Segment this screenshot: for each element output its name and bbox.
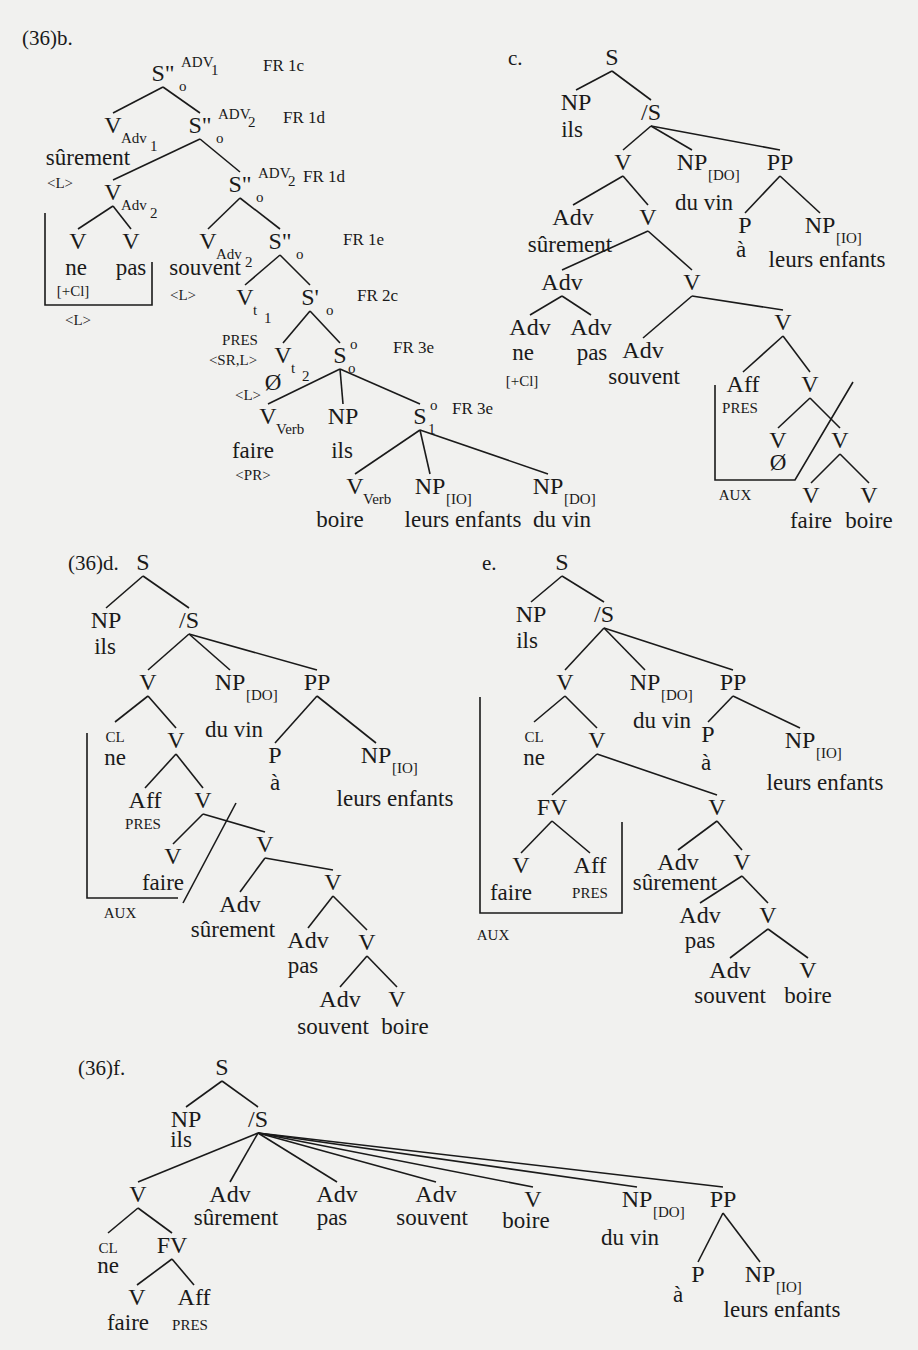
tree-branch bbox=[565, 628, 604, 670]
lexical-item: leurs enfants bbox=[769, 247, 886, 272]
feature-annotation: <SR,L> bbox=[209, 352, 257, 368]
syntax-trees-figure: S"oADV1FR 1cVAdv1sûrement<L>S"oADV2FR 1d… bbox=[0, 0, 918, 1350]
tree-node: Advsouvent bbox=[297, 986, 369, 1039]
tree-branch bbox=[137, 1259, 172, 1285]
lexical-item: ne bbox=[97, 1253, 119, 1278]
tree-branch bbox=[340, 956, 367, 987]
node-subscript-index: 1 bbox=[264, 310, 272, 326]
tree-branch bbox=[176, 754, 203, 788]
aux-label: AUX bbox=[719, 487, 752, 503]
tree-node: Pà bbox=[736, 212, 752, 262]
node-category: Adv bbox=[415, 1181, 456, 1207]
tree-branch bbox=[208, 198, 240, 229]
node-category: PP bbox=[720, 669, 747, 695]
tree-node: S"oADV2FR 1d bbox=[188, 106, 325, 146]
node-subscript: [DO] bbox=[661, 687, 693, 703]
tree-node: V bbox=[683, 269, 701, 295]
tree-branch bbox=[534, 696, 565, 722]
tree-node: Vfaire bbox=[490, 852, 532, 905]
lexical-item: boire bbox=[502, 1208, 549, 1233]
tree-branch bbox=[189, 634, 317, 670]
tree-branch bbox=[173, 814, 203, 844]
tree-branch bbox=[283, 311, 310, 343]
tree-node: NP[DO]du vin bbox=[601, 1186, 685, 1250]
tree-node: NPils bbox=[328, 403, 359, 463]
tree-node: Advpas bbox=[316, 1181, 357, 1230]
lexical-item: PRES bbox=[572, 885, 608, 901]
node-subscript: [IO] bbox=[816, 745, 842, 761]
lexical-item: pas bbox=[317, 1205, 348, 1230]
node-category: /S bbox=[179, 607, 199, 633]
tree-branch bbox=[145, 754, 176, 788]
aux-label: AUX bbox=[104, 905, 137, 921]
lexical-item: souvent bbox=[694, 983, 766, 1008]
lexical-item: PRES bbox=[222, 332, 258, 348]
tree-branch bbox=[240, 858, 265, 892]
tree-node: NP[IO]leurs enfants bbox=[337, 742, 454, 811]
lexical-item: boire bbox=[784, 983, 831, 1008]
tree-branch bbox=[698, 1213, 723, 1262]
tree-node: V bbox=[708, 794, 726, 820]
tree-node: PP bbox=[304, 669, 331, 695]
tree-node: /S bbox=[641, 99, 661, 125]
tree-branch bbox=[717, 821, 742, 850]
node-category: Adv bbox=[219, 891, 260, 917]
tree-branch bbox=[106, 576, 143, 608]
node-subscript: o bbox=[216, 130, 224, 146]
tree-branch bbox=[265, 858, 333, 870]
tree-node: Vne[+Cl] bbox=[57, 228, 90, 299]
tree-node: Advsouvent bbox=[694, 957, 766, 1008]
tree-node: Pà bbox=[673, 1261, 705, 1307]
node-category: S' bbox=[301, 284, 319, 310]
node-category: Adv bbox=[570, 314, 611, 340]
node-subscript: Adv bbox=[121, 197, 147, 213]
node-category: V bbox=[388, 986, 406, 1012]
node-category: V bbox=[799, 957, 817, 983]
tree-branch bbox=[186, 1081, 222, 1107]
lexical-item: boire bbox=[845, 508, 892, 533]
lexical-item: ne bbox=[512, 340, 534, 365]
lexical-item: sûrement bbox=[633, 870, 718, 895]
node-category: NP bbox=[91, 607, 122, 633]
node-category: S bbox=[215, 1054, 228, 1080]
tree-node: V bbox=[733, 849, 751, 875]
tree-node: V bbox=[759, 902, 777, 928]
tree-branch bbox=[203, 814, 265, 832]
tree-branch bbox=[573, 176, 623, 205]
node-superscript: o bbox=[430, 397, 438, 413]
node-category: V bbox=[199, 228, 217, 254]
lexical-item: faire bbox=[232, 438, 274, 463]
node-category: V bbox=[324, 869, 342, 895]
node-category: PP bbox=[304, 669, 331, 695]
tree-node: AffPRES bbox=[172, 1284, 210, 1333]
tree-branch bbox=[780, 176, 820, 213]
node-category: Adv bbox=[319, 986, 360, 1012]
tree-node: FV bbox=[537, 794, 568, 820]
tree-branch bbox=[138, 1133, 258, 1182]
tree-branch bbox=[230, 1133, 258, 1182]
node-category: V bbox=[774, 309, 792, 335]
tree-branch bbox=[778, 398, 810, 428]
lexical-item: à bbox=[270, 770, 280, 795]
tree-node: NP[IO]leurs enfants bbox=[769, 212, 886, 272]
node-superscript-index: 2 bbox=[248, 114, 256, 130]
tree-node: V bbox=[801, 371, 819, 397]
node-category: Aff bbox=[727, 371, 760, 397]
tree-branch bbox=[310, 311, 340, 343]
tree-node: S"oADV2FR 1d bbox=[228, 165, 345, 205]
lexical-item: ils bbox=[94, 634, 116, 659]
lexical-item: ils bbox=[170, 1127, 192, 1152]
tree-branch bbox=[138, 1208, 172, 1233]
node-category: Adv bbox=[679, 902, 720, 928]
node-category: V bbox=[194, 787, 212, 813]
tree-node: Advpas bbox=[287, 927, 328, 978]
tree-branch bbox=[148, 696, 176, 728]
tree-branch bbox=[222, 1081, 258, 1107]
tree-branch bbox=[730, 929, 768, 958]
node-category: NP bbox=[785, 727, 816, 753]
lexical-item: faire bbox=[790, 508, 832, 533]
tree-branch bbox=[604, 628, 733, 670]
node-category: V bbox=[358, 929, 376, 955]
lexical-item: souvent bbox=[169, 255, 241, 280]
lexical-item: pas bbox=[288, 953, 319, 978]
